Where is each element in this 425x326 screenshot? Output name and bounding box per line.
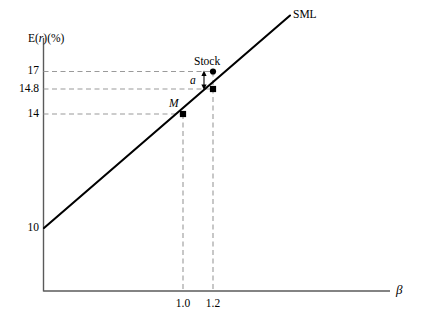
x-tick-label-1-2: 1.2 [197,298,229,310]
sml-series-label: SML [293,9,317,21]
y-tick-label-10: 10 [10,222,39,234]
point-marker-sml-beta-1-2 [210,86,216,92]
chart-canvas [0,0,425,326]
y-tick-label-17: 17 [10,65,39,77]
point-marker-market [180,111,186,117]
sml-line [44,16,290,229]
x-axis-title: β [396,283,402,296]
point-marker-stock [210,68,216,74]
sml-chart-figure: E(r)(%) β 17 14.8 14 10 1.0 1.2 SML Stoc… [0,0,425,326]
alpha-annotation-label: a [190,75,196,87]
market-point-label: M [169,98,179,110]
y-axis-title: E(r)(%) [28,33,64,45]
x-tick-label-1-0: 1.0 [167,298,199,310]
y-axis-title-pre: E( [28,32,39,44]
y-tick-label-14: 14 [10,108,39,120]
y-axis-title-post: )(%) [43,32,64,44]
y-tick-label-14-8: 14.8 [4,83,39,95]
stock-point-label: Stock [194,56,220,68]
